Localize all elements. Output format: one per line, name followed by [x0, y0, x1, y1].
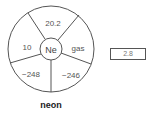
segment-top-value: 20.2 — [45, 19, 61, 28]
segment-upper-right-value: gas — [72, 44, 85, 53]
answer-input-box[interactable]: 2.8 — [110, 48, 146, 60]
element-name-label: neon — [40, 100, 62, 110]
segment-lower-right-value: −246 — [62, 71, 81, 80]
segment-lower-left-value: −248 — [22, 70, 41, 79]
segment-upper-left-value: 10 — [23, 43, 32, 52]
element-symbol: Ne — [45, 45, 57, 55]
